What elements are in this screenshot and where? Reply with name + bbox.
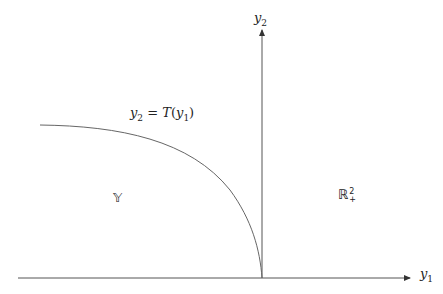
x-axis-label: y1	[420, 266, 433, 284]
region-label-positive-orthant: ℝ2+	[338, 187, 356, 204]
diagram-canvas	[0, 0, 443, 294]
y-axis-label: y2	[254, 10, 267, 28]
frontier-curve	[40, 125, 262, 278]
region-label-production-set: 𝕐	[113, 190, 122, 205]
curve-label: y2 = T(y1)	[130, 105, 194, 123]
